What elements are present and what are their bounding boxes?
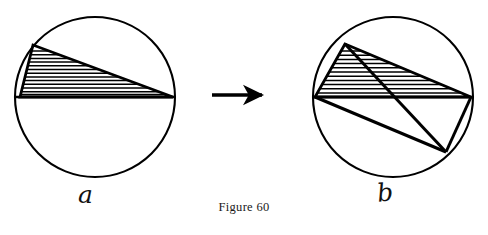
panel-b xyxy=(300,17,485,177)
hatched-triangle-a xyxy=(20,45,173,97)
panel-a xyxy=(10,17,185,177)
figure-caption: Figure 60 xyxy=(0,200,488,215)
hatch-fill-a xyxy=(10,51,185,94)
figure-60-illustration: a b Figure 60 xyxy=(0,0,488,235)
line-left-to-lower-right-b xyxy=(315,97,446,152)
